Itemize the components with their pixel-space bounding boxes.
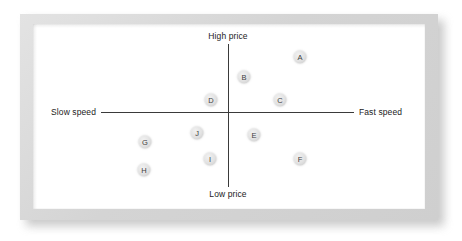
axis-label-low-price: Low price bbox=[209, 189, 246, 199]
data-point-d: D bbox=[205, 94, 218, 107]
data-point-label: G bbox=[142, 138, 148, 146]
data-point-label: I bbox=[209, 155, 211, 163]
data-point-b: B bbox=[238, 71, 251, 84]
axis-label-slow-speed: Slow speed bbox=[51, 107, 96, 117]
perceptual-map-figure: High price Low price Slow speed Fast spe… bbox=[0, 0, 462, 241]
axis-label-fast-speed: Fast speed bbox=[359, 107, 402, 117]
horizontal-axis-speed bbox=[101, 112, 354, 113]
data-point-label: D bbox=[208, 96, 213, 104]
data-point-f: F bbox=[294, 153, 307, 166]
data-point-g: G bbox=[139, 136, 152, 149]
vertical-axis-price bbox=[228, 44, 229, 187]
data-point-h: H bbox=[138, 164, 151, 177]
data-point-label: F bbox=[298, 155, 303, 163]
data-point-c: C bbox=[274, 94, 287, 107]
data-point-label: J bbox=[195, 129, 199, 137]
data-point-label: E bbox=[251, 131, 256, 139]
data-point-i: I bbox=[204, 153, 217, 166]
data-point-e: E bbox=[248, 129, 261, 142]
data-point-a: A bbox=[294, 51, 307, 64]
data-point-label: C bbox=[277, 96, 282, 104]
axis-label-high-price: High price bbox=[208, 31, 247, 41]
data-point-label: H bbox=[141, 166, 146, 174]
data-point-label: A bbox=[297, 53, 302, 61]
data-point-label: B bbox=[241, 73, 246, 81]
data-point-j: J bbox=[191, 127, 204, 140]
